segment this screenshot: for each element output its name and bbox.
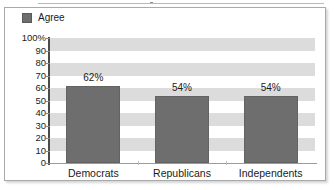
y-axis-tick [46, 51, 50, 52]
y-axis-tick [46, 138, 50, 139]
y-axis-tick [46, 88, 50, 89]
y-axis-labels: 100%9080706050403020100 [5, 8, 46, 190]
y-axis-tick-label: 70 [6, 71, 46, 80]
x-axis-line [48, 163, 317, 164]
category-label-democrats: Democrats [49, 166, 138, 182]
y-axis-tick-label: 50 [6, 96, 46, 105]
y-axis-tick-label: 30 [6, 121, 46, 130]
y-axis-tick-label: 80 [6, 58, 46, 67]
y-axis-tick-label: 20 [6, 133, 46, 142]
bar-independents[interactable] [244, 96, 298, 164]
y-axis-tick-label: 10 [6, 146, 46, 155]
y-axis-tick-label: 40 [6, 108, 46, 117]
y-axis-tick [46, 126, 50, 127]
y-axis-tick [46, 163, 50, 164]
chart-frame: Agree 100%9080706050403020100 62%54%54% … [4, 7, 326, 181]
y-axis-tick [46, 63, 50, 64]
bar-value-label-independents: 54% [244, 83, 298, 93]
y-axis-tick [46, 76, 50, 77]
y-axis-tick-label: 0 [6, 158, 46, 167]
y-axis-tick-label: 100% [6, 33, 46, 42]
x-axis-separator [226, 161, 227, 165]
bar-republicans[interactable] [155, 96, 209, 164]
bar-value-label-republicans: 54% [155, 83, 209, 93]
y-axis-tick-label: 60 [6, 83, 46, 92]
y-axis-tick [46, 151, 50, 152]
category-label-republicans: Republicans [138, 166, 227, 182]
category-label-independents: Independents [226, 166, 315, 182]
x-axis-categories: DemocratsRepublicansIndependents [49, 166, 315, 182]
y-axis-tick-label: 90 [6, 46, 46, 55]
title-remnant [38, 2, 324, 5]
y-axis-tick [46, 38, 50, 39]
x-axis-separator [138, 161, 139, 165]
bar-democrats[interactable] [66, 86, 120, 164]
y-axis-tick [46, 113, 50, 114]
bar-value-label-democrats: 62% [66, 73, 120, 83]
title-remnant-rule [38, 3, 324, 4]
y-axis-tick [46, 101, 50, 102]
bar-series-agree: 62%54%54% [49, 38, 315, 163]
